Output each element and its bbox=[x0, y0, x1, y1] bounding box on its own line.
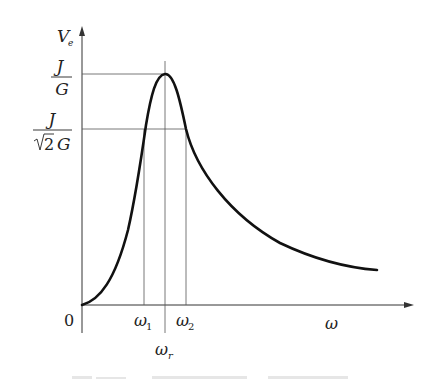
cropped-caption-remnant bbox=[72, 376, 348, 379]
peak-denominator: G bbox=[55, 79, 69, 99]
resonance-curve bbox=[82, 74, 377, 305]
peak-numerator: J bbox=[54, 56, 65, 76]
axes bbox=[82, 34, 408, 333]
x-axis-label: ω bbox=[325, 314, 338, 333]
y-axis-label-subscript: e bbox=[68, 38, 73, 48]
omega-2-label: ω 2 bbox=[176, 311, 194, 332]
omega-r-label: ω r bbox=[155, 340, 174, 361]
resonance-diagram: V e J G J 2 G 0 ω 1 ω 2 ω r ω bbox=[0, 0, 421, 381]
half-power-root-value: 2 bbox=[44, 135, 54, 154]
peak-value-label: J G bbox=[51, 56, 72, 99]
y-axis-arrow-icon bbox=[79, 26, 85, 36]
half-power-value-label: J 2 G bbox=[33, 109, 72, 154]
omega-r-subscript: r bbox=[168, 350, 174, 361]
omega-1-label: ω 1 bbox=[134, 311, 152, 332]
omega-1-subscript: 1 bbox=[146, 321, 152, 332]
origin-label: 0 bbox=[64, 311, 74, 330]
half-power-denominator-rest: G bbox=[57, 134, 71, 154]
omega-r-symbol: ω bbox=[155, 340, 168, 359]
half-power-numerator: J bbox=[46, 109, 57, 129]
omega-2-subscript: 2 bbox=[188, 321, 194, 332]
x-axis-arrow-icon bbox=[404, 302, 414, 308]
